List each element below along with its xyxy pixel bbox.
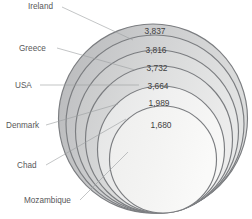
label-denmark: Denmark: [6, 121, 40, 130]
value-denmark: 3,664: [148, 81, 169, 91]
label-greece: Greece: [19, 44, 46, 53]
label-usa: USA: [15, 81, 32, 90]
value-chad: 1,989: [149, 98, 170, 108]
value-greece: 3,816: [146, 45, 167, 55]
chart-canvas: Ireland Greece USA Denmark Chad Mozambiq…: [0, 0, 252, 219]
value-usa: 3,732: [147, 63, 168, 73]
nested-circle-chart: Ireland Greece USA Denmark Chad Mozambiq…: [0, 0, 252, 219]
label-chad: Chad: [17, 161, 37, 170]
label-mozambique: Mozambique: [24, 196, 71, 205]
value-ireland: 3,837: [145, 26, 166, 36]
leader-line-ireland: [62, 7, 133, 40]
label-ireland: Ireland: [28, 2, 53, 11]
value-mozambique: 1,680: [151, 120, 172, 130]
